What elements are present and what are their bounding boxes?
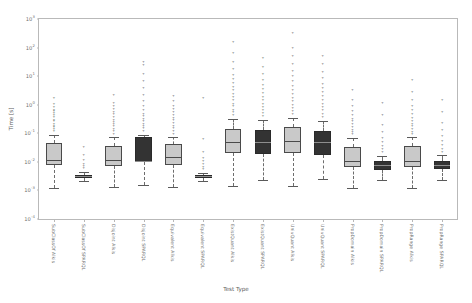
x-tick-mark	[353, 219, 354, 222]
x-tick-label: Equivalent Alkis	[170, 224, 175, 261]
y-tick-label: 103	[26, 16, 35, 22]
x-tick-label: UnivQuant Alkis	[290, 224, 295, 261]
y-tick-label: 10-1	[24, 130, 35, 136]
y-tick-mark	[37, 76, 40, 77]
outlier-marker: +	[441, 135, 444, 138]
x-tick-mark	[382, 219, 383, 222]
whisker-lower	[442, 169, 443, 179]
x-tick-label: ExistQuant Alkis	[230, 224, 235, 262]
y-tick-mark	[37, 133, 40, 134]
y-tick-label: 100	[26, 102, 35, 108]
y-tick-mark	[37, 19, 40, 20]
y-tick-mark	[37, 104, 40, 105]
y-tick-label: 10-4	[24, 216, 35, 222]
x-tick-mark	[84, 219, 85, 222]
plot-area: ++++++++++++++++++++++++++++++++++++++++…	[39, 19, 457, 219]
outlier-marker: +	[441, 112, 444, 115]
x-tick-label: UnivQuant SPARQL	[320, 224, 325, 269]
boxplot-figure: ++++++++++++++++++++++++++++++++++++++++…	[0, 0, 472, 303]
y-axis-label: Time [s]	[8, 108, 14, 131]
x-axis-label: Test Type	[0, 286, 472, 292]
plot-axes: ++++++++++++++++++++++++++++++++++++++++…	[38, 18, 458, 220]
x-tick-mark	[114, 219, 115, 222]
x-tick-mark	[54, 219, 55, 222]
outlier-marker: +	[441, 140, 444, 143]
x-tick-label: Disjoint Alkis	[111, 224, 116, 254]
x-tick-label: Equivalent SPARQL	[200, 224, 205, 269]
box-plot-group: +++++++++	[39, 19, 457, 219]
cap-lower	[437, 180, 447, 181]
x-tick-mark	[144, 219, 145, 222]
y-tick-mark	[37, 190, 40, 191]
outlier-marker: +	[441, 99, 444, 102]
outlier-marker: +	[441, 129, 444, 132]
x-tick-label: PropRange SPARQL	[439, 224, 444, 269]
x-tick-label: PropDomain SPARQL	[379, 224, 384, 272]
outlier-marker: +	[441, 145, 444, 148]
y-tick-label: 10-2	[24, 159, 35, 165]
x-tick-label: PropRange Alkis	[409, 224, 414, 262]
median-line	[434, 165, 451, 166]
y-tick-mark	[37, 219, 40, 220]
x-tick-label: PropDomain Alkis	[350, 224, 355, 265]
cap-upper	[437, 155, 447, 156]
x-tick-mark	[173, 219, 174, 222]
outlier-marker: +	[441, 151, 444, 154]
x-tick-mark	[412, 219, 413, 222]
x-tick-mark	[203, 219, 204, 222]
y-tick-mark	[37, 161, 40, 162]
x-tick-label: Disjoint SPARQL	[141, 224, 146, 261]
outlier-marker: +	[441, 148, 444, 151]
y-tick-label: 102	[26, 45, 35, 51]
outlier-marker: +	[441, 122, 444, 125]
x-tick-label: SubClassOf Alkis	[51, 224, 56, 263]
x-tick-mark	[323, 219, 324, 222]
x-tick-label: ExistQuant SPARQL	[260, 224, 265, 269]
x-tick-mark	[263, 219, 264, 222]
x-tick-mark	[293, 219, 294, 222]
y-tick-label: 101	[26, 73, 35, 79]
x-tick-mark	[442, 219, 443, 222]
x-tick-label: SubClassOf SPARQL	[81, 224, 86, 270]
x-tick-mark	[233, 219, 234, 222]
y-tick-label: 10-3	[24, 187, 35, 193]
y-tick-mark	[37, 47, 40, 48]
